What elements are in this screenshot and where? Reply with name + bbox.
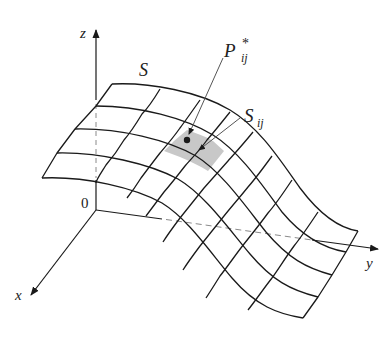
surface-integral-diagram: z x y 0 S P * ij S ij xyxy=(0,0,392,352)
svg-text:ij: ij xyxy=(241,51,248,65)
surface-S xyxy=(42,84,358,318)
z-axis-label: z xyxy=(79,25,86,41)
svg-text:ij: ij xyxy=(257,116,264,130)
point-label: P * ij xyxy=(223,36,249,65)
x-axis-label: x xyxy=(14,287,22,303)
point-leader-arrow xyxy=(189,58,223,134)
sample-point-P xyxy=(184,137,190,143)
svg-text:*: * xyxy=(242,36,249,51)
patch-label: S ij xyxy=(244,105,264,130)
origin-label: 0 xyxy=(81,195,89,211)
x-axis xyxy=(31,210,96,295)
svg-text:P: P xyxy=(223,40,236,61)
svg-text:S: S xyxy=(244,105,254,126)
y-axis xyxy=(96,210,378,249)
surface-label: S xyxy=(139,60,148,80)
y-axis-label: y xyxy=(364,255,373,271)
patch-leader-arrow xyxy=(199,118,240,150)
